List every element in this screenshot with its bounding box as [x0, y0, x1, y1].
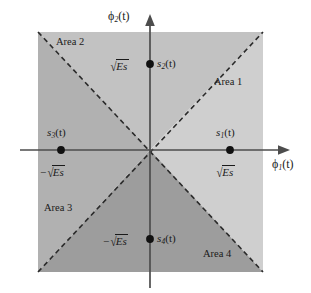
point-label-s3: s3(t) — [47, 127, 66, 139]
radical-sign: √ — [111, 60, 117, 73]
point-label-s1: s1(t) — [216, 127, 235, 139]
phi2-arg: (t) — [118, 9, 129, 23]
figure-canvas — [0, 0, 311, 293]
tick-label-phi2-positive: √Es — [110, 57, 129, 73]
point-s3[interactable] — [57, 146, 65, 154]
radicand: Es — [52, 165, 65, 178]
radical-sign: √ — [217, 166, 223, 179]
tick-label-phi1-negative: −√Es — [40, 163, 65, 179]
phi1-arg: (t) — [282, 157, 293, 171]
phi1-axis-arrowhead — [278, 145, 290, 155]
energy-symbol: E — [116, 60, 123, 72]
phi2-axis-arrowhead — [145, 14, 155, 26]
point-s4[interactable] — [146, 235, 154, 243]
s4-arg: (t) — [165, 232, 175, 244]
radical-group: √Es — [110, 59, 129, 72]
radicand: Es — [116, 59, 129, 72]
point-label-s4: s4(t) — [157, 233, 176, 245]
radicand: Es — [115, 234, 128, 247]
s2-arg: (t) — [165, 57, 175, 69]
radical-group: √Es — [47, 165, 66, 178]
radicand: Es — [222, 165, 235, 178]
point-s2[interactable] — [146, 60, 154, 68]
area-label-1: Area 1 — [214, 77, 242, 88]
area-label-4: Area 4 — [203, 249, 231, 260]
radical-sign: √ — [47, 166, 53, 179]
energy-subscript: s — [60, 166, 64, 178]
energy-subscript: s — [229, 166, 233, 178]
minus-sign: − — [40, 166, 47, 178]
energy-subscript: s — [123, 60, 127, 72]
radical-group: √Es — [110, 234, 129, 247]
tick-label-phi2-negative: −√Es — [103, 232, 128, 248]
point-s1[interactable] — [226, 146, 234, 154]
tick-label-phi1-positive: √Es — [216, 163, 235, 179]
s1-arg: (t) — [224, 126, 234, 138]
radical-group: √Es — [216, 165, 235, 178]
energy-subscript: s — [123, 235, 127, 247]
energy-symbol: E — [53, 166, 60, 178]
energy-symbol: E — [222, 166, 229, 178]
s3-arg: (t) — [55, 126, 65, 138]
area-label-2: Area 2 — [56, 37, 84, 48]
area-label-3: Area 3 — [44, 203, 72, 214]
phi2-axis-label: ϕ2(t) — [108, 10, 130, 23]
energy-symbol: E — [116, 235, 123, 247]
phi1-axis-label: ϕ1(t) — [272, 158, 294, 171]
point-label-s2: s2(t) — [157, 58, 176, 70]
radical-sign: √ — [110, 235, 116, 248]
signal-constellation-figure: ϕ2(t) ϕ1(t) Area 2 Area 1 Area 3 Area 4 … — [0, 0, 311, 293]
minus-sign: − — [103, 235, 110, 247]
